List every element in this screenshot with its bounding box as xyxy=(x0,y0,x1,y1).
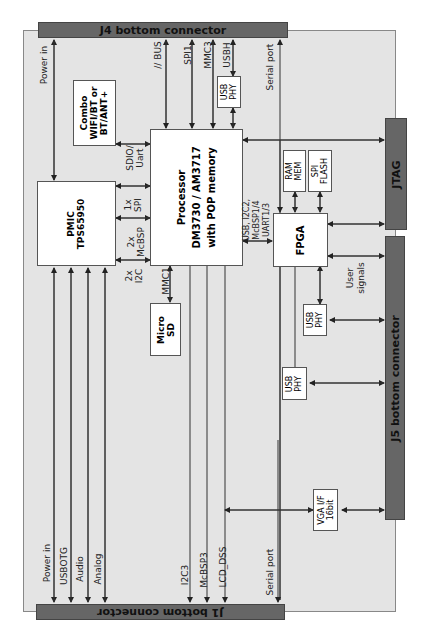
ram-line2: MEM xyxy=(294,162,303,181)
spiflash-line2: FLASH xyxy=(320,158,329,184)
label-mmc3: MMC3 xyxy=(203,41,213,69)
pmic-line2: TPS65950 xyxy=(77,198,87,249)
usb-phy-mid-block: USB PHY xyxy=(303,304,327,336)
microsd-line1: Micro xyxy=(156,316,166,344)
j1-label: J1 bottom connector xyxy=(97,606,223,619)
label-2x-i2c: 2xI2C xyxy=(124,269,144,284)
microsd-block: Micro SD xyxy=(150,303,181,356)
usbphy-top-line1: USB xyxy=(220,84,229,100)
jtag-connector: JTAG xyxy=(385,118,407,230)
label-analog: Analog xyxy=(93,553,103,584)
processor-line3: with POP memory xyxy=(204,146,219,248)
combo-line3: BT/ANT+ xyxy=(100,87,110,140)
pmic-block: PMIC TPS65950 xyxy=(37,181,116,266)
label-lcd-dss: LCD_DSS xyxy=(218,546,228,587)
vga-if-block: VGA I/F 16bit xyxy=(313,489,338,531)
j1-connector: J1 bottom connector xyxy=(36,604,285,620)
microsd-line2: SD xyxy=(166,316,176,344)
label-fpga-if: USB, I2C2,McBSP1/4UART1/3 xyxy=(242,199,272,241)
label-1x-spi: 1xSPI xyxy=(123,198,143,212)
label-spi1: SPI1 xyxy=(183,45,193,65)
j5-connector: J5 bottom connector xyxy=(385,236,405,520)
fpga-block: FPGA xyxy=(273,213,328,267)
jtag-label: JTAG xyxy=(390,160,403,188)
usbphy-mid-line2: PHY xyxy=(315,312,324,328)
combo-wifi-block: Combo WIFI/BT or BT/ANT+ xyxy=(73,80,116,146)
usb-phy-top-block: USB PHY xyxy=(217,76,241,108)
vga-line1: VGA I/F xyxy=(317,495,326,524)
j4-label: J4 bottom connector xyxy=(100,24,226,37)
usb-phy-low-block: USB PHY xyxy=(282,367,307,400)
ram-mem-block: RAM MEM xyxy=(283,150,306,192)
processor-block: Processor DM3730 / AM3717 with POP memor… xyxy=(150,129,243,266)
label-serial-bottom: Serial port xyxy=(265,549,275,596)
usbphy-top-line2: PHY xyxy=(229,84,238,100)
fpga-label: FPGA xyxy=(295,225,306,255)
processor-line1: Processor xyxy=(174,146,189,248)
usbphy-mid-line1: USB xyxy=(306,312,315,328)
vga-line2: 16bit xyxy=(326,495,335,524)
label-bus: // BUS xyxy=(153,41,163,68)
label-usbh: USBH xyxy=(222,42,232,67)
ram-line1: RAM xyxy=(285,162,294,181)
j5-label: J5 bottom connector xyxy=(389,315,402,441)
j4-connector: J4 bottom connector xyxy=(38,22,288,38)
spiflash-line1: SPI xyxy=(311,158,320,184)
label-sdio: SDIO/Uart xyxy=(125,145,145,170)
processor-line2: DM3730 / AM3717 xyxy=(189,146,204,248)
label-mmc1: MMC1 xyxy=(161,267,171,295)
usbphy-low-line2: PHY xyxy=(294,375,303,391)
label-2x-mcbsp: 2xMcBSP xyxy=(126,227,146,257)
combo-line1: Combo xyxy=(80,87,90,140)
usbphy-low-line1: USB xyxy=(285,375,294,391)
label-serial-top: Serial port xyxy=(265,44,275,91)
pmic-line1: PMIC xyxy=(67,198,77,249)
label-power-in-top: Power in xyxy=(39,46,49,84)
label-user-signals: Usersignals xyxy=(345,262,367,293)
combo-line2: WIFI/BT or xyxy=(90,87,100,140)
spi-flash-block: SPI FLASH xyxy=(308,150,332,192)
